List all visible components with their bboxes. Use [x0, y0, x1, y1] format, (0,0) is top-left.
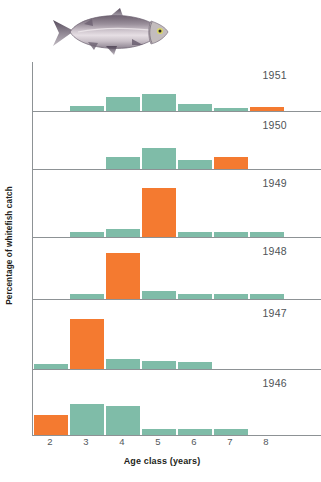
age-class-bar — [177, 160, 213, 168]
panel-stack: 195119501949194819471946 — [32, 62, 321, 436]
age-class-bar — [69, 404, 105, 435]
age-class-bar — [141, 291, 177, 298]
x-axis-tick-label: 8 — [257, 436, 275, 447]
year-panel: 1950 — [32, 112, 321, 170]
x-axis-label: Age class (years) — [32, 456, 292, 466]
year-panel: 1949 — [32, 170, 321, 238]
cohort-bar — [33, 415, 69, 435]
x-axis-tick-label: 3 — [77, 436, 95, 447]
bar-group — [33, 61, 285, 111]
age-class-bar — [105, 97, 141, 111]
age-class-bar — [141, 148, 177, 169]
cohort-bar — [105, 253, 141, 299]
cohort-bar — [213, 157, 249, 169]
year-label: 1951 — [262, 69, 287, 81]
x-axis-tick-label: 4 — [113, 436, 131, 447]
year-panel: 1946 — [32, 370, 321, 436]
year-label: 1946 — [262, 377, 287, 389]
x-axis-tick-label: 5 — [149, 436, 167, 447]
bar-group — [33, 169, 285, 237]
age-class-bar — [105, 406, 141, 435]
whitefish-illustration — [48, 6, 170, 58]
year-panel: 1947 — [32, 300, 321, 370]
year-label: 1948 — [262, 245, 287, 257]
year-panel: 1948 — [32, 238, 321, 300]
age-class-bar — [105, 157, 141, 169]
bar-group — [33, 111, 285, 169]
y-axis-label: Percentage of whitefish catch — [0, 130, 18, 360]
year-label: 1949 — [262, 177, 287, 189]
year-label: 1950 — [262, 119, 287, 131]
age-class-bar — [141, 361, 177, 369]
age-class-bar — [141, 94, 177, 111]
y-axis-label-text: Percentage of whitefish catch — [5, 186, 14, 304]
age-class-bar — [105, 359, 141, 369]
x-axis-tick-label: 7 — [221, 436, 239, 447]
year-label: 1947 — [262, 307, 287, 319]
cohort-bar — [69, 319, 105, 368]
age-class-bar — [105, 229, 141, 237]
x-axis-tick-label: 6 — [185, 436, 203, 447]
bar-group — [33, 299, 285, 369]
year-panel: 1951 — [32, 62, 321, 112]
x-axis-tick-label: 2 — [41, 436, 59, 447]
bar-group — [33, 369, 285, 435]
bar-group — [33, 237, 285, 299]
whitefish-age-class-figure: Percentage of whitefish catch 1951195019… — [0, 0, 321, 482]
cohort-bar — [141, 188, 177, 237]
x-axis-ticks: 2345678 — [32, 436, 321, 452]
